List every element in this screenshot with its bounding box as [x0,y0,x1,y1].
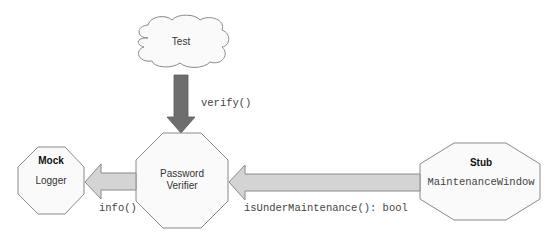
test-label: Test [172,36,190,47]
maintenance-arrow [229,165,420,200]
maintenance-label: isUnderMaintenance(): bool [244,202,408,214]
verify-arrow [167,75,195,133]
diagram-canvas: Test verify() Password Verifier Mock Log… [0,0,558,245]
stub-name-label: MaintenanceWindow [427,176,534,188]
mock-role-label: Mock [38,155,64,166]
info-label: info() [99,202,137,214]
password-verifier-line1: Password [160,168,204,179]
stub-role-label: Stub [470,157,492,168]
password-verifier-line2: Verifier [166,180,197,191]
mock-name-label: Logger [35,175,66,186]
verify-label: verify() [201,97,251,109]
info-arrow [85,164,136,199]
